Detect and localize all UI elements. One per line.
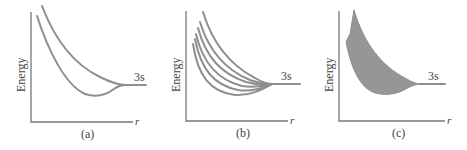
- level-label: 3s: [134, 70, 145, 84]
- x-axis-label: r: [447, 114, 452, 126]
- panel-caption: (b): [236, 126, 250, 140]
- energy-band-figure: Energy r 3s (a) Energy r 3s (b) Energy r…: [0, 0, 467, 150]
- x-axis-label: r: [135, 115, 140, 127]
- y-axis-label: Energy: [14, 58, 28, 92]
- curve-3: [198, 28, 272, 85]
- level-label: 3s: [428, 69, 439, 83]
- upper-curve: [42, 6, 146, 85]
- lower-curve: [37, 16, 126, 96]
- level-label: 3s: [281, 69, 292, 83]
- energy-band: [346, 10, 422, 94]
- y-axis-label: Energy: [322, 58, 336, 92]
- panel-caption: (c): [392, 126, 405, 140]
- panel-c: Energy r 3s (c): [322, 10, 452, 140]
- y-axis: [31, 12, 133, 122]
- y-axis-label: Energy: [169, 58, 183, 92]
- panel-a: Energy r 3s (a): [14, 6, 146, 141]
- x-axis-label: r: [290, 114, 295, 126]
- panel-caption: (a): [81, 127, 94, 141]
- panel-b: Energy r 3s (b): [169, 11, 300, 140]
